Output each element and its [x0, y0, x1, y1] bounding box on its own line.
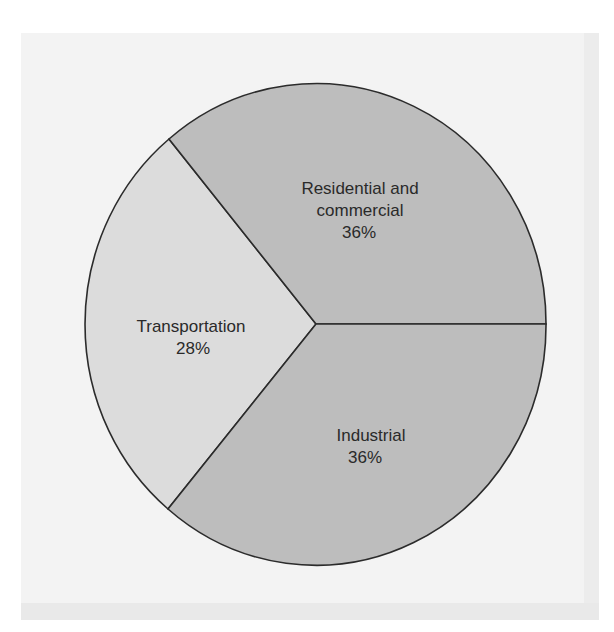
- label-residential-pct: 36%: [342, 223, 376, 242]
- label-transportation-line1: Transportation: [137, 317, 246, 336]
- pie-chart: Residential and commercial 36% Transport…: [0, 0, 614, 632]
- label-residential-line1: Residential and: [301, 179, 418, 198]
- label-residential-line2: commercial: [317, 201, 404, 220]
- label-transportation-pct: 28%: [176, 339, 210, 358]
- label-industrial-line1: Industrial: [337, 426, 406, 445]
- label-industrial-pct: 36%: [348, 448, 382, 467]
